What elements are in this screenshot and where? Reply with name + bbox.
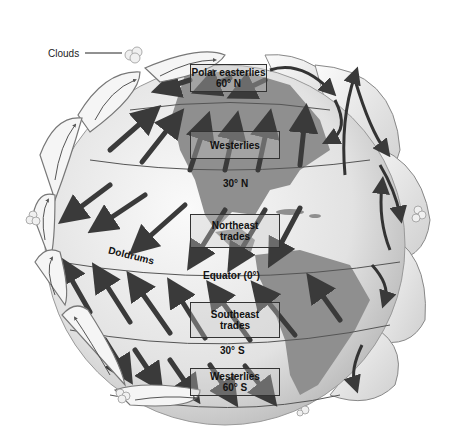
wind-circulation-diagram: Clouds Polar easterlies 60° N Westerlies… bbox=[0, 0, 450, 447]
westerlies-north-label: Westerlies bbox=[210, 140, 260, 151]
westerlies-south-box: Westerlies 60° S bbox=[190, 368, 280, 396]
se-trades-label-2: trades bbox=[220, 320, 250, 331]
se-trades-label-1: Southeast bbox=[211, 309, 259, 320]
polar-easterlies-box: Polar easterlies 60° N bbox=[190, 64, 267, 92]
ne-trades-label-2: trades bbox=[220, 231, 250, 242]
lat-60n-label: 60° N bbox=[216, 78, 241, 89]
cloud-icon bbox=[125, 47, 142, 63]
polar-easterlies-label: Polar easterlies bbox=[192, 67, 266, 78]
ne-trades-label-1: Northeast bbox=[212, 220, 259, 231]
clouds-label: Clouds bbox=[48, 48, 79, 59]
lat-30n-label: 30° N bbox=[223, 178, 248, 189]
lat-60s-label: 60° S bbox=[223, 382, 248, 393]
westerlies-north-box: Westerlies bbox=[190, 131, 280, 159]
equator-label: Equator (0°) bbox=[203, 270, 260, 281]
southeast-trades-box: Southeast trades bbox=[190, 302, 280, 338]
lat-30s-label: 30° S bbox=[220, 345, 245, 356]
northeast-trades-box: Northeast trades bbox=[190, 214, 280, 248]
westerlies-south-label: Westerlies bbox=[210, 371, 260, 382]
